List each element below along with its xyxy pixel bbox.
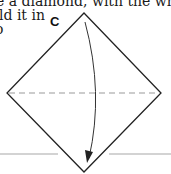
- origami-diagram-figure: e a diamond, with the white ld it in o C: [0, 0, 171, 174]
- step-label: C: [50, 15, 59, 28]
- fold-arrow-icon: [85, 22, 96, 158]
- fold-diagram: [0, 0, 171, 174]
- arrowhead-icon: [85, 150, 93, 163]
